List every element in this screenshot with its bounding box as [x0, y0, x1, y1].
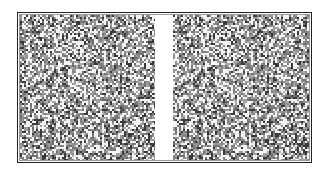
noise-texture-right [173, 15, 309, 160]
noise-texture-left [20, 15, 155, 160]
stereogram-left-panel [20, 15, 155, 160]
stereogram-right-panel [173, 15, 309, 160]
